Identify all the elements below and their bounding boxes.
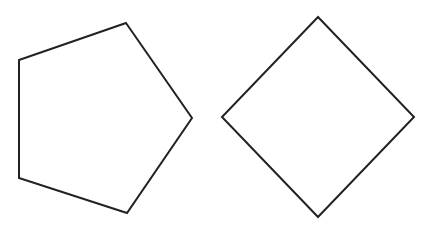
diagram-canvas	[0, 0, 437, 234]
pentagon-shape	[19, 23, 192, 213]
diamond-shape	[222, 17, 414, 217]
